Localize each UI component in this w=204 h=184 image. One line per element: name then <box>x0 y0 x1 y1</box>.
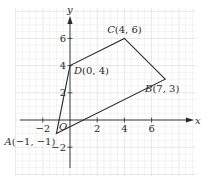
y-axis-label: y <box>66 4 73 15</box>
x-axis-label: x <box>195 115 201 126</box>
y-tick-label: 4 <box>60 60 66 71</box>
x-tick-label: −2 <box>35 123 50 134</box>
x-tick-label: 4 <box>121 123 127 134</box>
x-tick-label: 2 <box>94 123 100 134</box>
vertex-label-b: B(7, 3) <box>144 83 179 94</box>
plot-svg: −2246−2246xyOA(−1, −1)B(7, 3)C(4, 6)D(0,… <box>0 0 204 184</box>
vertex-label-a: A(−1, −1) <box>4 136 56 147</box>
origin-label: O <box>59 121 67 132</box>
labels: −2246−2246xyOA(−1, −1)B(7, 3)C(4, 6)D(0,… <box>4 4 201 153</box>
y-tick-label: 6 <box>60 33 66 44</box>
vertex-label-d: D(0, 4) <box>73 65 109 76</box>
y-axis-arrow-icon <box>67 16 72 24</box>
vertex-label-c: C(4, 6) <box>107 24 142 35</box>
y-tick-label: 2 <box>60 87 66 98</box>
coordinate-plane-figure: −2246−2246xyOA(−1, −1)B(7, 3)C(4, 6)D(0,… <box>0 0 204 184</box>
x-axis-arrow-icon <box>186 117 194 122</box>
x-tick-label: 6 <box>148 123 154 134</box>
